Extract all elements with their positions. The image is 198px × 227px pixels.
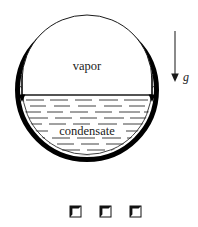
footer-square-mark [100, 206, 111, 217]
gravity-label: g [183, 70, 189, 84]
figure-canvas: vapor condensate g [0, 0, 198, 227]
footer-square-mark [70, 206, 81, 217]
footer-square-marks [70, 206, 141, 217]
condensate-label: condensate [59, 124, 115, 138]
vapor-dome-boundary [22, 15, 152, 95]
footer-square-mark [130, 206, 141, 217]
vapor-label: vapor [73, 59, 102, 73]
gravity-arrow [171, 31, 179, 82]
condensation-diagram: vapor condensate g [0, 0, 198, 227]
